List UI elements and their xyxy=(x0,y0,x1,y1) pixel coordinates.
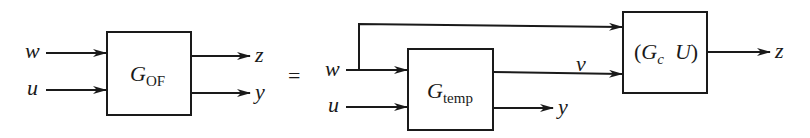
z-label: z xyxy=(255,44,264,66)
w-label-2: w xyxy=(325,58,340,80)
y-label-2: y xyxy=(558,96,568,118)
z-label-2: z xyxy=(775,40,784,62)
u-label-2: u xyxy=(328,94,339,116)
block-diagram xyxy=(0,0,810,138)
gc-u-label: (Gc U) xyxy=(634,41,698,67)
v-label: v xyxy=(576,53,586,75)
u-label: u xyxy=(27,77,38,99)
g-of-label: GOF xyxy=(130,63,165,89)
equals-sign: = xyxy=(288,63,300,89)
v-signal-arrow xyxy=(493,72,622,74)
w-label: w xyxy=(25,40,40,62)
y-label: y xyxy=(255,81,265,103)
g-temp-label: Gtemp xyxy=(427,80,473,106)
